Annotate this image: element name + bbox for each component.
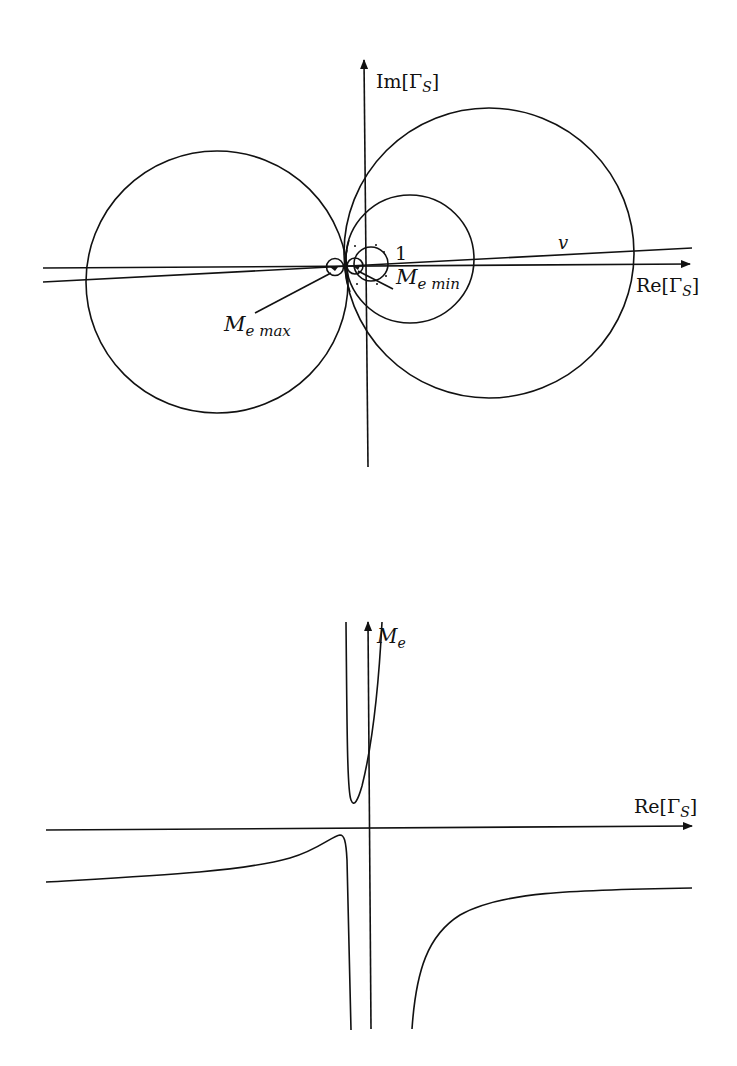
left-large-circle: [86, 151, 348, 413]
right-branch-curve: [412, 888, 692, 1029]
me-axis: [368, 622, 371, 1029]
diagram-canvas: Im[ΓS] Re[ΓS] 1 v Me max Me min Me Re[ΓS…: [0, 0, 737, 1066]
re-axis-label-top: Re[ΓS]: [636, 274, 699, 299]
m-emin-label: Me min: [395, 265, 460, 293]
max-leader-line: [255, 273, 331, 313]
bottom-plot: [46, 622, 692, 1030]
me-axis-label: Me: [376, 624, 406, 651]
top-plot: [43, 60, 692, 467]
im-axis: [364, 60, 368, 467]
line-v-label: v: [558, 232, 568, 253]
upper-branch-curve: [346, 622, 382, 803]
re-axis-label-bottom: Re[ΓS]: [634, 795, 697, 820]
unit-circle-label: 1: [395, 242, 407, 264]
m-emax-label: Me max: [223, 312, 291, 340]
im-axis-label: Im[ΓS]: [376, 70, 439, 95]
left-branch-curve: [46, 835, 351, 1030]
